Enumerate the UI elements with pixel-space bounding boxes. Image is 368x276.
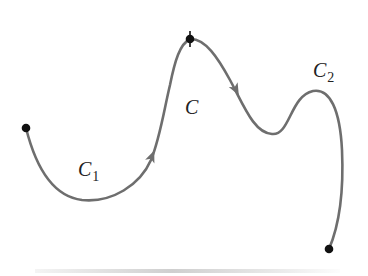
end-point (325, 245, 334, 254)
label-c1: C1 (78, 158, 99, 184)
label-c2: C2 (313, 59, 334, 85)
arrow-down-icon (229, 82, 243, 97)
curve-diagram: C1 C C2 (0, 0, 368, 276)
label-c: C (185, 96, 199, 118)
bottom-shadow-bar (35, 269, 340, 273)
arrow-up-icon (145, 149, 159, 164)
start-point (22, 124, 31, 133)
curve-c1 (26, 39, 190, 200)
